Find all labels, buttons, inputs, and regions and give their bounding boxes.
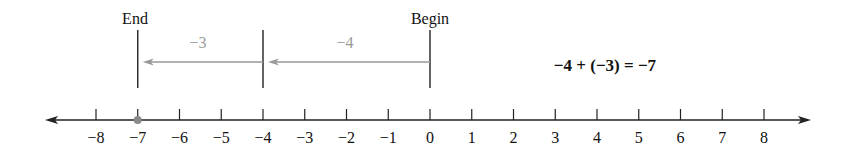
tick-label: −1	[380, 129, 397, 146]
equation-label: −4 + (−3) = −7	[554, 56, 657, 75]
number-line-diagram: −8−7−6−5−4−3−2−1012345678 End Begin −4 −…	[0, 0, 846, 153]
begin-label: Begin	[411, 10, 449, 28]
tick-label: −4	[254, 129, 271, 146]
step-minus-4-label: −4	[336, 34, 353, 51]
tick-label: 3	[551, 129, 559, 146]
tick-marks	[96, 109, 764, 120]
tick-label: −3	[296, 129, 313, 146]
end-label: End	[122, 10, 148, 27]
tick-label: 5	[635, 129, 643, 146]
tick-label: −6	[171, 129, 188, 146]
tick-label: −7	[129, 129, 146, 146]
tick-label: 2	[510, 129, 518, 146]
step-minus-3-label: −3	[189, 34, 206, 51]
tick-label: 4	[593, 129, 601, 146]
tick-label: 8	[760, 129, 768, 146]
step-arrows	[143, 59, 430, 66]
tick-label: 0	[426, 129, 434, 146]
position-markers	[134, 30, 430, 124]
end-point-dot	[134, 116, 142, 124]
tick-label: −5	[213, 129, 230, 146]
number-line-axis	[45, 116, 811, 124]
tick-labels: −8−7−6−5−4−3−2−1012345678	[87, 129, 768, 146]
tick-label: −8	[87, 129, 104, 146]
tick-label: 1	[468, 129, 476, 146]
tick-label: −2	[338, 129, 355, 146]
tick-label: 6	[677, 129, 685, 146]
tick-label: 7	[718, 129, 726, 146]
